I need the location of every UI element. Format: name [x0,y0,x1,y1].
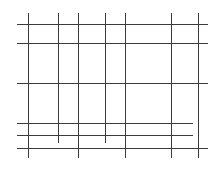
vertical-lines [29,13,199,158]
horizontal-lines [17,25,208,149]
line-grid-diagram [0,0,224,171]
